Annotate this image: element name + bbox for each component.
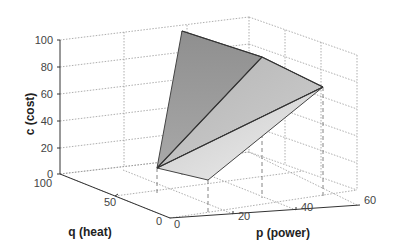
svg-text:60: 60 bbox=[364, 194, 376, 206]
p-axis-label: p (power) bbox=[256, 226, 310, 240]
z-tick-labels: 100 80 60 40 20 0 bbox=[35, 34, 53, 180]
svg-text:0: 0 bbox=[174, 218, 180, 230]
z-axis-label: c (cost) bbox=[23, 93, 37, 136]
svg-text:100: 100 bbox=[35, 34, 53, 46]
svg-text:40: 40 bbox=[41, 115, 53, 127]
svg-text:80: 80 bbox=[41, 61, 53, 73]
svg-text:0: 0 bbox=[156, 215, 162, 227]
svg-text:20: 20 bbox=[238, 210, 250, 222]
svg-text:100: 100 bbox=[34, 177, 52, 189]
q-axis-label: q (heat) bbox=[68, 225, 111, 239]
svg-text:20: 20 bbox=[41, 142, 53, 154]
svg-text:40: 40 bbox=[301, 201, 313, 213]
svg-text:50: 50 bbox=[104, 196, 116, 208]
cost-surface bbox=[157, 31, 323, 180]
svg-text:60: 60 bbox=[41, 88, 53, 100]
3d-surface-chart: 100 80 60 40 20 0 100 50 0 0 20 40 60 c … bbox=[0, 0, 393, 250]
q-tick-labels: 100 50 0 bbox=[34, 177, 162, 227]
p-axis-line bbox=[170, 205, 360, 218]
